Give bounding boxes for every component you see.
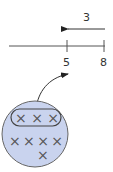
- mark: ×: [51, 133, 63, 149]
- tick-label-5: 5: [63, 57, 70, 68]
- marks-row-2: × × × ×: [9, 133, 63, 149]
- mark: ×: [15, 110, 27, 126]
- mark: ×: [9, 133, 21, 149]
- mark: ×: [37, 147, 49, 163]
- mark: ×: [23, 133, 35, 149]
- mark: ×: [47, 110, 59, 126]
- marks-row-1: × × ×: [15, 110, 59, 126]
- tick-label-8: 8: [100, 57, 107, 68]
- marks-row-3: ×: [37, 147, 49, 163]
- mark: ×: [31, 110, 43, 126]
- arrow-label: 3: [83, 12, 90, 23]
